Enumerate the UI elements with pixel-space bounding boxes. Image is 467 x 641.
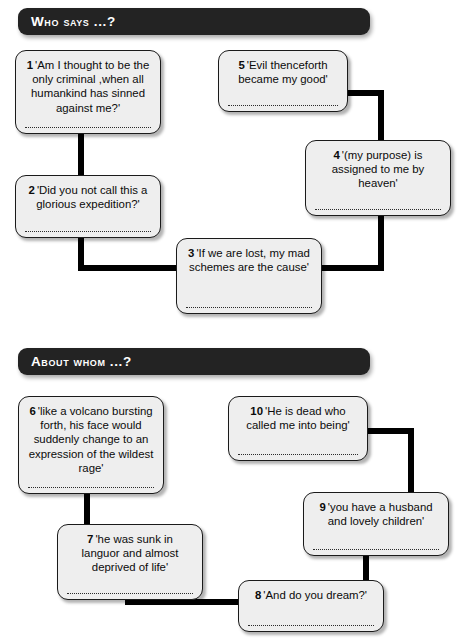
section-header-who-says: Who says ...? — [18, 8, 370, 35]
answer-line-5[interactable] — [228, 105, 338, 106]
answer-line-8[interactable] — [248, 625, 374, 626]
connector-6-to-7 — [84, 492, 90, 526]
question-box-4[interactable]: 4'(my purpose) is assigned to me by heav… — [305, 140, 451, 216]
question-box-10-text: 10'He is dead who called me into being' — [238, 404, 358, 432]
question-box-9[interactable]: 9'you have a husband and lovely children… — [303, 492, 449, 556]
answer-line-7[interactable] — [67, 593, 193, 594]
question-box-8-quote: 'And do you dream?' — [263, 589, 367, 601]
answer-line-1[interactable] — [25, 127, 151, 128]
question-box-8-number: 8 — [255, 589, 261, 601]
question-box-9-text: 9'you have a husband and lovely children… — [313, 500, 439, 528]
question-box-3-quote: 'If we are lost, my mad schemes are the … — [189, 247, 310, 273]
section-header-who-says-label: Who says ...? — [31, 14, 116, 29]
question-box-1-text: 1'Am I thought to be the only criminal ,… — [25, 58, 151, 115]
question-box-5-quote: 'Evil thenceforth became my good' — [238, 59, 328, 85]
section-header-about-whom: About whom ...? — [18, 348, 370, 375]
question-box-1-number: 1 — [27, 59, 33, 71]
question-box-10-number: 10 — [250, 405, 263, 417]
question-box-7-quote: 'he was sunk in languor and almost depri… — [82, 533, 179, 573]
answer-line-4[interactable] — [315, 209, 441, 210]
question-box-2-text: 2'Did you not call this a glorious exped… — [25, 183, 151, 211]
question-box-7[interactable]: 7'he was sunk in languor and almost depr… — [57, 524, 203, 600]
answer-line-2[interactable] — [25, 231, 151, 232]
question-box-1-quote: 'Am I thought to be the only criminal ,w… — [31, 59, 149, 114]
answer-line-10[interactable] — [238, 454, 358, 455]
question-box-5-text: 5'Evil thenceforth became my good' — [228, 58, 338, 86]
worksheet-page: Who says ...? 5'Evil thenceforth became … — [0, 0, 467, 641]
question-box-7-number: 7 — [87, 533, 93, 545]
connector-5-to-trunk — [344, 90, 384, 96]
answer-line-3[interactable] — [186, 307, 312, 308]
question-box-7-text: 7'he was sunk in languor and almost depr… — [67, 532, 193, 575]
question-box-8[interactable]: 8'And do you dream?' — [238, 580, 384, 632]
question-box-4-number: 4 — [333, 149, 339, 161]
answer-line-6[interactable] — [28, 487, 154, 488]
question-box-3[interactable]: 3'If we are lost, my mad schemes are the… — [176, 238, 322, 314]
question-box-8-text: 8'And do you dream?' — [248, 588, 374, 602]
question-box-2-quote: 'Did you not call this a glorious expedi… — [36, 184, 147, 210]
question-box-5[interactable]: 5'Evil thenceforth became my good' — [218, 50, 348, 112]
question-box-6[interactable]: 6'like a volcano bursting forth, his fac… — [18, 396, 164, 494]
question-box-3-number: 3 — [188, 247, 194, 259]
question-box-5-number: 5 — [238, 59, 244, 71]
question-box-4-quote: '(my purpose) is assigned to me by heave… — [332, 149, 424, 189]
question-box-10[interactable]: 10'He is dead who called me into being' — [228, 396, 368, 461]
question-box-6-number: 6 — [29, 405, 35, 417]
question-box-3-text: 3'If we are lost, my mad schemes are the… — [186, 246, 312, 274]
connector-3-to-right — [322, 265, 384, 271]
section-header-about-whom-label: About whom ...? — [31, 354, 132, 369]
question-box-6-text: 6'like a volcano bursting forth, his fac… — [28, 404, 154, 475]
question-box-6-quote: 'like a volcano bursting forth, his face… — [29, 405, 154, 474]
question-box-1[interactable]: 1'Am I thought to be the only criminal ,… — [15, 50, 161, 134]
connector-2-to-3 — [78, 265, 188, 271]
question-box-9-quote: 'you have a husband and lovely children' — [328, 501, 433, 527]
question-box-2[interactable]: 2'Did you not call this a glorious exped… — [15, 175, 161, 238]
answer-line-9[interactable] — [313, 549, 439, 550]
question-box-4-text: 4'(my purpose) is assigned to me by heav… — [315, 148, 441, 191]
question-box-9-number: 9 — [319, 501, 325, 513]
connector-right-trunk-2 — [408, 428, 414, 498]
question-box-2-number: 2 — [29, 184, 35, 196]
